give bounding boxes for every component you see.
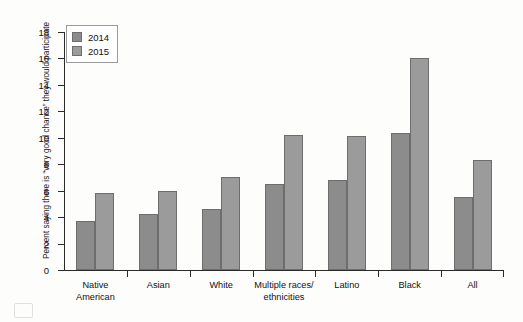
y-axis-tick: 18 bbox=[58, 32, 64, 33]
bar-2014 bbox=[328, 180, 347, 270]
x-axis-tick bbox=[127, 271, 128, 277]
y-axis-tick-label: 16 bbox=[38, 53, 49, 64]
legend-label-2014: 2014 bbox=[88, 32, 109, 43]
bar-2015 bbox=[221, 177, 240, 270]
bar-2014 bbox=[202, 209, 221, 270]
bar-2014 bbox=[391, 133, 410, 271]
y-axis-tick-label: 4 bbox=[44, 212, 49, 223]
bar-2014 bbox=[454, 197, 473, 270]
bar-group bbox=[441, 160, 504, 270]
x-axis-category-label: White bbox=[190, 280, 253, 292]
y-axis-tick-label: 2 bbox=[44, 238, 49, 249]
x-axis-category-label-line: American bbox=[64, 292, 127, 304]
bar-2015 bbox=[347, 136, 366, 270]
scan-artifact-mark bbox=[14, 303, 33, 318]
scan-bleed-bottom bbox=[40, 306, 83, 314]
bar-2015 bbox=[95, 193, 114, 270]
y-axis-tick-label: 14 bbox=[38, 79, 49, 90]
y-axis-tick: 10 bbox=[58, 138, 64, 139]
bar-group bbox=[315, 136, 378, 270]
x-axis-category-label-line: Latino bbox=[315, 280, 378, 292]
bar-2015 bbox=[284, 135, 303, 270]
x-axis-category-label: Latino bbox=[315, 280, 378, 292]
legend-item-2014: 2014 bbox=[72, 30, 109, 44]
x-axis-tick bbox=[503, 271, 504, 277]
x-axis-category-label: Multiple races/ethnicities bbox=[253, 280, 316, 303]
bar-group bbox=[64, 193, 127, 270]
y-axis-tick-label: 12 bbox=[38, 106, 49, 117]
y-axis-tick: 14 bbox=[58, 85, 64, 86]
x-axis-category-label-line: Native bbox=[64, 280, 127, 292]
x-axis-category-label: All bbox=[441, 280, 504, 292]
bar-2015 bbox=[473, 160, 492, 270]
x-axis-category-label-line: Black bbox=[378, 280, 441, 292]
x-axis-category-label-line: White bbox=[190, 280, 253, 292]
legend-label-2015: 2015 bbox=[88, 46, 109, 57]
x-axis-tick bbox=[378, 271, 379, 277]
x-axis-category-label: NativeAmerican bbox=[64, 280, 127, 303]
y-axis-tick-label: 0 bbox=[44, 265, 49, 276]
bar-2015 bbox=[410, 58, 429, 270]
legend: 2014 2015 bbox=[66, 25, 118, 63]
y-axis-tick-label: 10 bbox=[38, 132, 49, 143]
bar-group bbox=[127, 191, 190, 270]
x-axis-tick bbox=[315, 271, 316, 277]
x-axis-category-label-line: All bbox=[441, 280, 504, 292]
x-axis-category-label-line: Asian bbox=[127, 280, 190, 292]
bar-2015 bbox=[158, 191, 177, 270]
legend-swatch-2015 bbox=[72, 46, 82, 56]
x-axis-category-label-line: ethnicities bbox=[253, 292, 316, 304]
y-axis-tick-label: 18 bbox=[38, 27, 49, 38]
legend-swatch-2014 bbox=[72, 32, 82, 42]
y-axis-tick: 16 bbox=[58, 58, 64, 59]
y-axis-tick: 12 bbox=[58, 111, 64, 112]
plot-area: 024681012141618NativeAmericanAsianWhiteM… bbox=[64, 32, 504, 271]
y-axis-tick: 8 bbox=[58, 164, 64, 165]
scan-bleed-top bbox=[86, 4, 135, 12]
legend-item-2015: 2015 bbox=[72, 44, 109, 58]
x-axis-tick bbox=[253, 271, 254, 277]
bar-2014 bbox=[139, 214, 158, 270]
y-axis-tick: 6 bbox=[58, 191, 64, 192]
bar-group bbox=[253, 135, 316, 270]
x-axis-category-label: Black bbox=[378, 280, 441, 292]
y-axis-tick-label: 6 bbox=[44, 185, 49, 196]
x-axis-tick bbox=[190, 271, 191, 277]
x-axis-category-label: Asian bbox=[127, 280, 190, 292]
bar-group bbox=[190, 177, 253, 270]
x-axis-tick bbox=[441, 271, 442, 277]
y-axis-tick-label: 8 bbox=[44, 159, 49, 170]
bar-group bbox=[378, 58, 441, 270]
y-axis-tick: 0 bbox=[58, 270, 64, 271]
bar-2014 bbox=[76, 221, 95, 270]
x-axis-category-label-line: Multiple races/ bbox=[253, 280, 316, 292]
chart-figure: Percent saying there is “very good chanc… bbox=[0, 0, 523, 322]
x-axis-line bbox=[64, 270, 504, 271]
bar-2014 bbox=[265, 184, 284, 270]
